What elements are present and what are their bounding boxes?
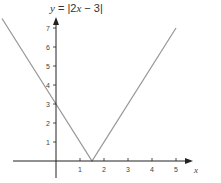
y-tick-label: 4 — [46, 82, 50, 89]
y-tick-label: 1 — [46, 139, 50, 146]
x-axis-arrow-icon — [185, 158, 193, 164]
x-tick-labels: 1 2 3 4 5 — [78, 166, 178, 173]
x-tick-label: 5 — [174, 166, 178, 173]
y-tick-label: 6 — [46, 44, 50, 51]
chart-canvas: 1 2 3 4 5 x 1 2 3 4 5 6 7 — [0, 0, 221, 183]
x-tick-label: 3 — [126, 166, 130, 173]
y-tick-labels: 1 2 3 4 5 6 7 — [46, 25, 50, 146]
y-axis-arrow-icon — [53, 17, 59, 25]
x-tick-label: 2 — [102, 166, 106, 173]
y-tick-label: 7 — [46, 25, 50, 32]
y-tick-label: 2 — [46, 120, 50, 127]
function-line — [2, 19, 176, 162]
x-tick-label: 4 — [150, 166, 154, 173]
x-tick-label: 1 — [78, 166, 82, 173]
x-axis-label: x — [193, 165, 198, 175]
y-tick-label: 3 — [46, 101, 50, 108]
y-tick-label: 5 — [46, 63, 50, 70]
